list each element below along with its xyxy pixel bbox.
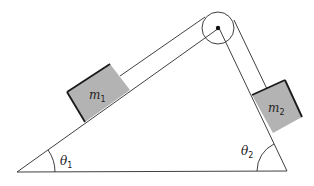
incline-pulley-diagram: m1 m2 θ1 θ2 [0,0,314,186]
angle2-arc [257,144,274,171]
pulley-axle [216,26,220,30]
base-line [17,171,287,172]
string-right [234,20,267,89]
left-incline [17,28,219,172]
angle1-arc [48,150,55,172]
string-left [120,17,205,76]
angle1-label: θ1 [60,154,72,170]
angle2-label: θ2 [241,144,253,160]
